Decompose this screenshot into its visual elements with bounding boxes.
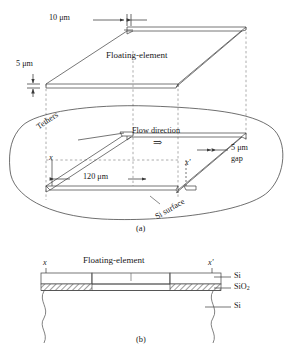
gap-label-line2: gap	[231, 155, 243, 163]
si-surface-leader	[150, 196, 160, 204]
section-marker-xprime-b: x'	[208, 259, 213, 267]
dim-10um-label: 10 μm	[49, 14, 70, 22]
tethers-leader	[78, 133, 124, 140]
si-right-pad	[170, 273, 221, 284]
break-line-left	[42, 291, 46, 343]
dim-5um-thickness	[27, 74, 40, 97]
sio2-left	[41, 284, 92, 291]
panel-b-geometry	[41, 268, 231, 343]
section-marker-x-a: x	[49, 154, 53, 162]
section-marker-x-b: x	[43, 259, 47, 267]
sio2-right	[170, 284, 221, 291]
dim-120um-label: 120 μm	[82, 173, 109, 181]
floating-element-label-b: Floating-element	[83, 256, 144, 265]
flow-direction-arrow-icon: ⇒	[153, 137, 162, 148]
section-markers	[52, 160, 186, 186]
layer-label-sio2: SiO2	[234, 283, 250, 292]
layer-label-si-bottom: Si	[234, 302, 241, 310]
section-marker-xprime-a: x'	[185, 159, 190, 167]
floating-element-label-a: Floating-element	[106, 51, 167, 60]
panel-a-caption: (a)	[136, 225, 145, 233]
layer-label-sio2-text: SiO	[234, 282, 247, 291]
layer-label-sio2-subscript: 2	[247, 285, 250, 291]
dim-5um-thickness-label: 5 μm	[16, 60, 33, 68]
figure-container: 10 μm 5 μm Floating-element Tethers Flow…	[0, 0, 291, 359]
panel-b-caption: (b)	[136, 336, 146, 344]
flow-direction-label: Flow direction	[132, 127, 180, 135]
break-line-right	[211, 291, 215, 343]
dim-10um	[93, 14, 147, 26]
layer-label-si-top: Si	[234, 272, 241, 280]
gap-label-line1: 5 μm	[231, 144, 248, 152]
si-left-pad	[41, 273, 92, 284]
